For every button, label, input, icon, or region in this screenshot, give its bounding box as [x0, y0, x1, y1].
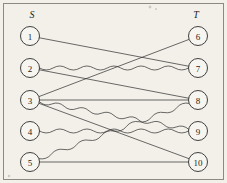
- node-9[interactable]: 9: [189, 122, 208, 141]
- node-label-10: 10: [194, 158, 204, 168]
- node-label-6: 6: [196, 32, 201, 42]
- node-label-3: 3: [28, 96, 33, 106]
- bipartite-graph-figure: 12345678910 S T: [0, 0, 227, 183]
- node-label-4: 4: [28, 127, 33, 137]
- node-label-2: 2: [28, 64, 33, 74]
- node-5[interactable]: 5: [21, 153, 40, 172]
- paper-speck: [8, 175, 10, 177]
- paper-speck: [149, 6, 152, 9]
- node-7[interactable]: 7: [189, 59, 208, 78]
- set-label-s: S: [30, 9, 35, 20]
- node-1[interactable]: 1: [21, 27, 40, 46]
- node-2[interactable]: 2: [21, 59, 40, 78]
- node-label-5: 5: [28, 158, 33, 168]
- node-3[interactable]: 3: [21, 91, 40, 110]
- graph-canvas: 12345678910 S T: [0, 0, 227, 183]
- node-8[interactable]: 8: [189, 91, 208, 110]
- node-label-7: 7: [196, 64, 201, 74]
- node-label-8: 8: [196, 96, 201, 106]
- node-10[interactable]: 10: [189, 153, 208, 172]
- node-6[interactable]: 6: [189, 27, 208, 46]
- node-4[interactable]: 4: [21, 122, 40, 141]
- node-label-9: 9: [196, 127, 201, 137]
- node-label-1: 1: [28, 32, 33, 42]
- paper-speck: [155, 8, 157, 10]
